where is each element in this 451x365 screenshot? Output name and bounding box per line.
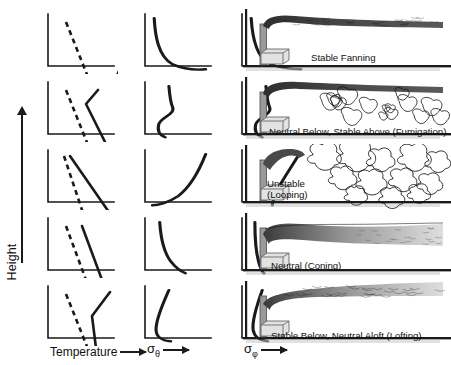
plume-caption-looping: Unstable(Looping) (267, 178, 327, 200)
sigma-theta-curve (154, 18, 206, 69)
plume-panel-fanning: Stable Fanning (243, 8, 451, 74)
xlabel-temperature-text: Temperature (50, 345, 117, 359)
looping-eddy (337, 144, 376, 172)
sigma-theta-curve (158, 86, 173, 137)
plume-caption-line: Unstable (267, 178, 327, 189)
temperature-profile-plot-coning (44, 216, 118, 278)
plume-body (263, 223, 443, 246)
sigma-theta-subscript: θ (155, 349, 160, 359)
sigma-theta-profile-plot-coning (141, 216, 215, 278)
plume-caption-fumigation: Neutral Below, Stable Above (Fumigation) (269, 126, 446, 137)
arrow-right-icon (261, 349, 287, 351)
plume-texture (292, 24, 300, 25)
sigma-phi-subscript: φ (252, 349, 258, 359)
ground-line (243, 65, 451, 67)
plume-caption-lofting: Stable Below, Neutral Aloft (Lofting) (271, 330, 422, 341)
plume-caption-line: Neutral (Coning) (271, 260, 341, 271)
fumigation-eddy (341, 107, 362, 125)
ground-shadow (246, 68, 440, 71)
building (261, 49, 289, 64)
plume-texture (396, 20, 404, 21)
plume-texture (411, 17, 419, 18)
plume-body (263, 149, 305, 170)
looping-eddy (356, 169, 387, 195)
fumigation-eddy (431, 108, 450, 124)
ground-shadow (246, 272, 440, 275)
plume-texture (312, 286, 322, 288)
sigma-theta-curve (160, 222, 186, 273)
fumigation-eddy (413, 109, 430, 124)
plot-axes (145, 218, 211, 270)
xlabel-sigma-theta: σθ (147, 341, 189, 359)
panel-left-border (245, 145, 247, 202)
stability-plume-figure: Height Temperature σθ σφ Stable FanningN… (0, 0, 451, 365)
arrow-right-icon (120, 351, 146, 353)
sigma-theta-profile-plot-looping (141, 148, 215, 210)
temperature-profile-plot-lofting (44, 284, 118, 346)
plume-panel-coning: Neutral (Coning) (243, 212, 451, 278)
plume-caption-fanning: Stable Fanning (311, 52, 375, 63)
sigma-theta-profile-plot-fumigation (141, 80, 215, 142)
plume-fanning (263, 15, 443, 29)
panel-left-border (245, 77, 247, 134)
plume-texture (405, 20, 413, 21)
sigma-theta-curve (152, 154, 205, 205)
plume-coning (263, 223, 443, 246)
fumigation-eddy (421, 97, 442, 115)
xlabel-sigma-theta-text: σθ (147, 341, 160, 359)
plume-panel-looping: Unstable(Looping) (243, 144, 451, 210)
plume-caption-line: Stable Fanning (311, 52, 375, 63)
plot-axes (145, 82, 211, 134)
plume-fumigation (263, 82, 450, 126)
plume-caption-coning: Neutral (Coning) (271, 260, 341, 271)
plume-texture (414, 20, 422, 21)
temperature-profile-plot-fumigation (44, 80, 118, 142)
plume-lofting (263, 282, 445, 310)
sigma-theta-curve (156, 290, 171, 341)
plume-illustration-fanning (243, 8, 451, 74)
ground-shadow (246, 204, 440, 207)
height-arrow-icon (21, 113, 23, 263)
plume-panel-fumigation: Neutral Below, Stable Above (Fumigation) (243, 76, 451, 142)
looping-eddy (366, 148, 395, 172)
plume-panel-lofting: Stable Below, Neutral Aloft (Lofting) (243, 280, 451, 346)
panel-left-border (245, 281, 247, 338)
plot-axes (145, 150, 211, 202)
xlabel-temperature: Temperature (50, 345, 146, 359)
fumigation-eddy (359, 97, 377, 113)
arrow-right-icon (163, 349, 189, 351)
temperature-profile-plot-looping (44, 148, 118, 210)
plume-caption-line: Neutral Below, Stable Above (Fumigation) (269, 126, 446, 137)
panel-left-border (245, 9, 247, 66)
plume-caption-line: (Looping) (267, 189, 327, 200)
panel-left-border (245, 213, 247, 270)
temperature-profile-plot-fanning (44, 12, 118, 74)
plume-caption-line: Stable Below, Neutral Aloft (Lofting) (271, 330, 422, 341)
sigma-theta-profile-plot-fanning (141, 12, 215, 74)
plume-texture (324, 286, 334, 288)
sigma-theta-profile-plot-lofting (141, 284, 215, 346)
fumigation-eddy (320, 93, 339, 110)
looping-eddy (328, 166, 357, 190)
height-axis-label: Height (5, 227, 19, 297)
plume-texture (302, 288, 312, 290)
looping-eddy (397, 144, 431, 171)
looping-eddy (388, 168, 417, 192)
height-axis: Height (0, 105, 34, 330)
plot-axes (48, 150, 114, 202)
